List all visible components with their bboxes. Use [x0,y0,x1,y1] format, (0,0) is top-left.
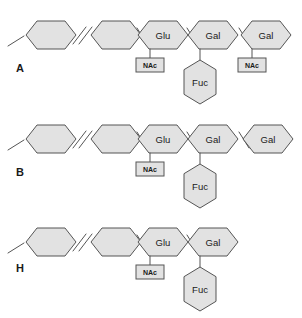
nac-label: NAc [143,166,157,173]
break-slash-2 [79,234,92,251]
hex-plain-1 [26,125,76,153]
sugar-unit-hex-plain-1 [26,21,76,49]
sugar-unit-hex-gal-1: GalFuc [184,125,238,208]
sugar-unit-hex-plain-2 [91,228,141,256]
row-label-a: A [16,62,24,74]
row-label-h: H [16,262,24,274]
nac-label: NAc [245,62,259,69]
sugar-unit-hex-gal-1: GalFuc [184,21,238,104]
chain-terminal-stub [8,36,24,46]
sugar-label-glu: Glu [156,134,171,145]
break-slash-2 [79,27,92,44]
sugar-label-gal: Gal [261,134,276,145]
chain-terminal-stub [8,140,24,150]
nac-label: NAc [143,269,157,276]
hex-plain-1 [26,21,76,49]
sugar-unit-hex-plain-1 [26,125,76,153]
sugar-label-fuc: Fuc [192,284,208,295]
chain-terminal-stub [8,243,24,253]
sugar-label-glu: Glu [156,237,171,248]
sugar-unit-hex-glu: GluNAc [136,21,188,72]
sugar-unit-hex-gal-2: Gal [243,125,293,153]
sugar-unit-hex-gal-2: GalNAc [238,21,291,72]
sugar-label-fuc: Fuc [192,77,208,88]
sugar-label-gal: Gal [206,237,221,248]
glycan-structure-diagram: GluNAcGalFucGalNAcAGluNAcGalFucGalBGluNA… [0,0,302,318]
chain-row-b: GluNAcGalFucGalB [8,125,293,208]
chain-row-h: GluNAcGalFucH [8,228,238,311]
sugar-label-glu: Glu [156,30,171,41]
sugar-label-gal: Gal [206,30,221,41]
break-slash-2 [79,131,92,148]
sugar-label-gal: Gal [206,134,221,145]
sugar-unit-hex-glu: GluNAc [136,228,188,279]
sugar-unit-hex-plain-2 [91,21,141,49]
hex-plain-2 [91,228,141,256]
sugar-unit-hex-plain-1 [26,228,76,256]
sugar-unit-hex-glu: GluNAc [136,125,188,176]
hex-plain-2 [91,125,141,153]
sugar-label-fuc: Fuc [192,181,208,192]
hex-plain-1 [26,228,76,256]
nac-label: NAc [143,62,157,69]
hex-plain-2 [91,21,141,49]
sugar-unit-hex-plain-2 [91,125,141,153]
sugar-label-gal: Gal [259,30,274,41]
row-label-b: B [16,166,24,178]
sugar-unit-hex-gal-1: GalFuc [184,228,238,311]
chain-row-a: GluNAcGalFucGalNAcA [8,21,291,104]
